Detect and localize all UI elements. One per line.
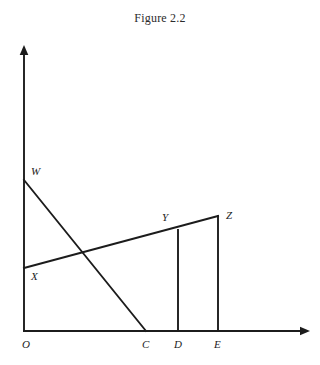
point-label-y: Y: [162, 212, 168, 223]
point-label-d: D: [174, 339, 182, 350]
axes-group: [20, 45, 310, 335]
figure-container: Figure 2.2 O WXYZCDE: [0, 0, 320, 365]
line-w-to-c: [24, 180, 146, 331]
y-axis-arrow-icon: [20, 45, 29, 55]
x-axis-arrow-icon: [300, 327, 310, 336]
segments-group: [24, 180, 218, 331]
point-label-w: W: [31, 166, 40, 177]
figure-drawing-canvas: [0, 0, 320, 365]
point-label-z: Z: [226, 210, 232, 221]
axis-origin-label: O: [22, 339, 30, 350]
point-label-x: X: [31, 271, 38, 282]
line-x-to-z: [24, 216, 218, 268]
point-label-e: E: [214, 339, 221, 350]
point-label-c: C: [142, 339, 149, 350]
